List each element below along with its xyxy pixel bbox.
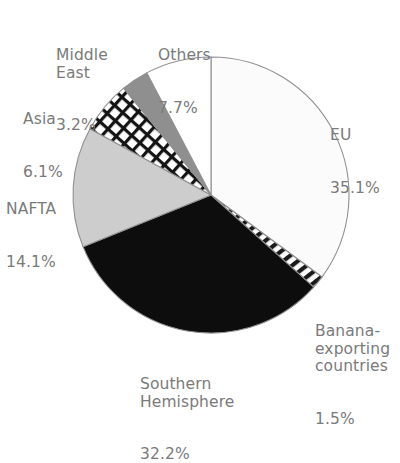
slice-label-southern-percent: 32.2% xyxy=(140,446,234,463)
slice-label-eu-percent: 35.1% xyxy=(330,180,380,198)
slice-label-asia-name: Asia xyxy=(23,111,63,129)
slice-label-others: Others 7.7% xyxy=(158,12,211,152)
slice-label-others-percent: 7.7% xyxy=(158,100,211,118)
slice-label-nafta-name: NAFTA xyxy=(6,201,56,219)
slice-label-eu-name: EU xyxy=(330,127,380,145)
slice-label-southern-hemisphere: Southern Hemisphere 32.2% xyxy=(140,341,234,463)
slice-label-banana-exporting-countries: Banana- exporting countries 1.5% xyxy=(315,288,390,463)
slice-label-others-name: Others xyxy=(158,47,211,65)
slice-label-nafta: NAFTA 14.1% xyxy=(6,166,56,306)
slice-label-middle-east-percent: 3.2% xyxy=(56,117,108,135)
slice-label-nafta-percent: 14.1% xyxy=(6,254,56,272)
slice-label-southern-name: Southern Hemisphere xyxy=(140,376,234,411)
slice-label-middle-east-name: Middle East xyxy=(56,47,108,82)
pie-slice-group xyxy=(73,57,349,333)
slice-label-banana-percent: 1.5% xyxy=(315,411,390,429)
slice-label-eu: EU 35.1% xyxy=(330,92,380,232)
slice-label-middle-east: Middle East 3.2% xyxy=(56,12,108,170)
slice-label-banana-name: Banana- exporting countries xyxy=(315,323,390,376)
